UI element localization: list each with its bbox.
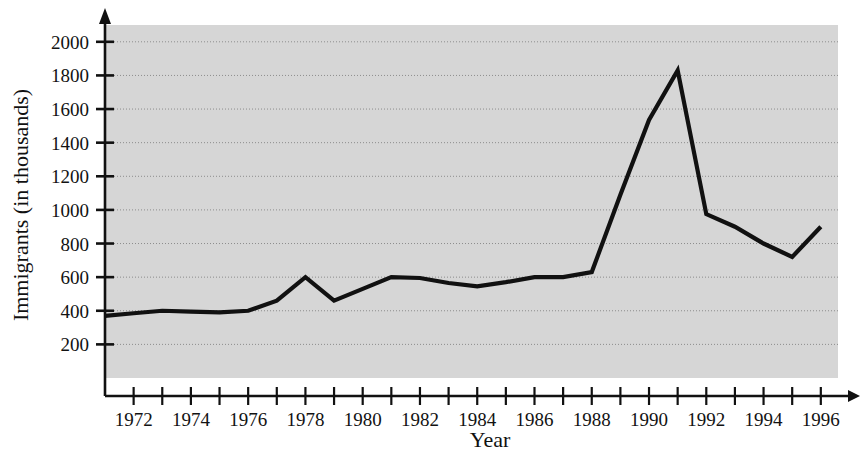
x-axis-title: Year bbox=[470, 427, 511, 452]
x-tick-label-1990: 1990 bbox=[630, 409, 668, 430]
y-tick-label-1400: 1400 bbox=[51, 133, 89, 154]
y-tick-label-1800: 1800 bbox=[51, 65, 89, 86]
y-tick-label-1000: 1000 bbox=[51, 200, 89, 221]
y-tick-label-200: 200 bbox=[61, 334, 90, 355]
x-tick-label-1988: 1988 bbox=[573, 409, 611, 430]
chart-canvas: 200400600800100012001400160018002000 197… bbox=[0, 0, 862, 457]
y-axis-title: Immigrants (in thousands) bbox=[8, 89, 33, 321]
x-tick-label-1992: 1992 bbox=[687, 409, 725, 430]
y-tick-label-600: 600 bbox=[61, 267, 90, 288]
plot-area-background bbox=[105, 25, 838, 378]
x-tick-label-1986: 1986 bbox=[515, 409, 553, 430]
y-tick-label-1200: 1200 bbox=[51, 166, 89, 187]
x-tick-label-1972: 1972 bbox=[115, 409, 153, 430]
y-axis-arrowhead bbox=[99, 8, 111, 24]
plot-background-group bbox=[105, 25, 838, 378]
x-tick-label-1980: 1980 bbox=[344, 409, 382, 430]
x-tick-label-1976: 1976 bbox=[229, 409, 267, 430]
x-tick-label-1996: 1996 bbox=[802, 409, 840, 430]
y-tick-label-1600: 1600 bbox=[51, 99, 89, 120]
immigration-line-chart: 200400600800100012001400160018002000 197… bbox=[0, 0, 862, 457]
y-tick-label-800: 800 bbox=[61, 234, 90, 255]
x-tick-label-1978: 1978 bbox=[286, 409, 324, 430]
x-axis bbox=[105, 390, 860, 402]
x-tick-label-1982: 1982 bbox=[401, 409, 439, 430]
y-tick-label-400: 400 bbox=[61, 301, 90, 322]
x-tick-label-1994: 1994 bbox=[745, 409, 784, 430]
x-axis-arrowhead bbox=[848, 390, 860, 402]
y-tick-label-2000: 2000 bbox=[51, 32, 89, 53]
x-tick-label-1974: 1974 bbox=[172, 409, 211, 430]
y-axis-tick-labels: 200400600800100012001400160018002000 bbox=[51, 32, 89, 356]
